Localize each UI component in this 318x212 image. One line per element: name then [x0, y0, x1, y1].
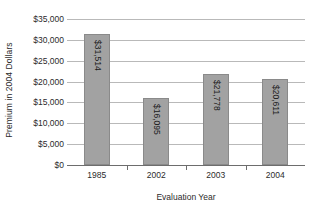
x-axis-tick-label: 2004 [246, 170, 306, 180]
x-axis-tick-label: 2003 [186, 170, 246, 180]
x-axis-tick-label: 2002 [127, 170, 187, 180]
y-axis-tick-label: $25,000 [18, 56, 64, 65]
x-axis-tick-labels: 1985200220032004 [67, 170, 305, 182]
y-axis-title: Premium in 2004 Dollars [0, 0, 18, 180]
plot-area: $31,514$16,095$21,778$20,611 [67, 19, 305, 166]
bar[interactable]: $21,778 [203, 74, 229, 165]
bar-slot: $21,778 [186, 19, 246, 165]
bar-slot: $31,514 [67, 19, 127, 165]
bar-value-label: $20,611 [271, 85, 280, 115]
y-axis-tick-label: $15,000 [18, 98, 64, 107]
bar[interactable]: $16,095 [143, 98, 169, 165]
y-axis-title-text: Premium in 2004 Dollars [4, 42, 14, 137]
bar-value-label: $16,095 [152, 104, 161, 135]
y-axis-tick-label: $35,000 [18, 15, 64, 24]
x-axis-tick-label: 1985 [67, 170, 127, 180]
y-axis-tick-label: $5,000 [18, 140, 64, 149]
bar[interactable]: $31,514 [84, 34, 110, 165]
y-axis-tick-label: $0 [18, 161, 64, 170]
y-axis-tick-label: $20,000 [18, 77, 64, 86]
bar-value-label: $31,514 [92, 40, 101, 71]
bar-slot: $16,095 [127, 19, 187, 165]
y-axis-tick-label: $30,000 [18, 35, 64, 44]
bar-value-label: $21,778 [211, 80, 220, 111]
y-axis-tick-label: $10,000 [18, 119, 64, 128]
y-axis-tick-labels: $0$5,000$10,000$15,000$20,000$25,000$30,… [18, 14, 66, 166]
bar-slot: $20,611 [246, 19, 306, 165]
bar[interactable]: $20,611 [262, 79, 288, 165]
bar-chart: Premium in 2004 Dollars $0$5,000$10,000$… [0, 0, 318, 212]
x-axis-title: Evaluation Year [67, 192, 305, 202]
